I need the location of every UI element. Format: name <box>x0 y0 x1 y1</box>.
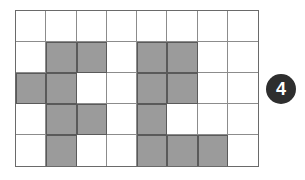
grid-cell-shaded <box>137 42 167 73</box>
grid-cell-empty <box>137 11 167 42</box>
grid-cell-shaded <box>167 135 197 166</box>
grid-cell-empty <box>228 42 258 73</box>
grid-cell-empty <box>228 11 258 42</box>
grid-cell-shaded <box>77 42 107 73</box>
figure: 4 <box>0 0 305 180</box>
grid-cell-empty <box>167 11 197 42</box>
grid-cell-shaded <box>137 135 167 166</box>
grid-cell-empty <box>107 104 137 135</box>
grid-cell-shaded <box>137 73 167 104</box>
grid-cell-shaded <box>46 73 76 104</box>
grid-cell-empty <box>107 73 137 104</box>
grid-cell-shaded <box>46 135 76 166</box>
grid-cell-empty <box>16 104 46 135</box>
grid-cell-empty <box>107 42 137 73</box>
grid-cell-empty <box>16 135 46 166</box>
grid-cell-empty <box>77 135 107 166</box>
grid-cell-shaded <box>16 73 46 104</box>
grid-cell-empty <box>107 135 137 166</box>
grid-cell-empty <box>228 104 258 135</box>
grid-cell-empty <box>198 104 228 135</box>
number-badge: 4 <box>266 74 296 104</box>
grid-cell-empty <box>228 135 258 166</box>
grid-cell-empty <box>198 42 228 73</box>
grid-cell-empty <box>107 11 137 42</box>
grid-cell-shaded <box>46 42 76 73</box>
grid-cell-empty <box>16 11 46 42</box>
grid-cell-empty <box>16 42 46 73</box>
grid-cell-empty <box>228 73 258 104</box>
grid-cell-shaded <box>77 104 107 135</box>
grid-cell-shaded <box>46 104 76 135</box>
grid-cell-shaded <box>137 104 167 135</box>
grid-cell-empty <box>77 11 107 42</box>
grid-cell-empty <box>77 73 107 104</box>
grid-cell-empty <box>198 73 228 104</box>
grid-cell-empty <box>198 11 228 42</box>
shaded-grid <box>15 10 259 167</box>
grid-cell-empty <box>167 104 197 135</box>
grid-cell-empty <box>46 11 76 42</box>
grid-cell-shaded <box>167 73 197 104</box>
grid-cell-shaded <box>167 42 197 73</box>
grid-cell-shaded <box>198 135 228 166</box>
